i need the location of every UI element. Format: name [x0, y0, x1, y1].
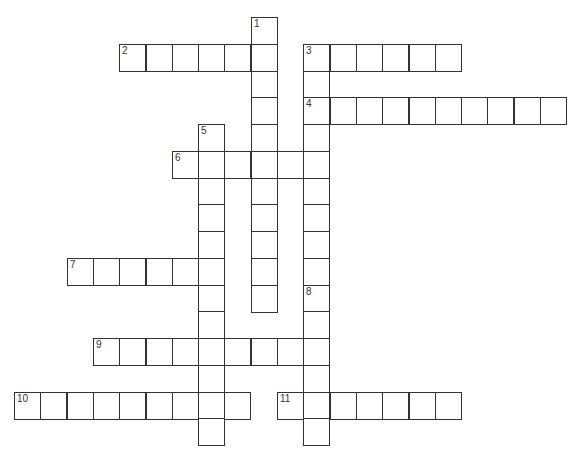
crossword-cell[interactable]: [303, 204, 330, 232]
crossword-cell[interactable]: [119, 392, 146, 420]
crossword-cell[interactable]: [119, 338, 146, 366]
clue-number: 5: [201, 126, 207, 136]
crossword-cell[interactable]: 9: [93, 338, 120, 366]
crossword-cell[interactable]: [303, 392, 330, 420]
crossword-cell[interactable]: 10: [14, 392, 41, 420]
crossword-cell[interactable]: [251, 204, 278, 232]
crossword-cell[interactable]: [435, 44, 462, 72]
crossword-cell[interactable]: [487, 97, 514, 125]
crossword-cell[interactable]: [93, 392, 120, 420]
crossword-cell[interactable]: [198, 178, 225, 206]
clue-number: 8: [306, 287, 312, 297]
crossword-cell[interactable]: 8: [303, 285, 330, 313]
crossword-cell[interactable]: 7: [67, 258, 94, 286]
crossword-cell[interactable]: [356, 392, 383, 420]
crossword-cell[interactable]: 6: [172, 151, 199, 179]
crossword-cell[interactable]: [198, 151, 225, 179]
clue-number: 3: [306, 46, 312, 56]
crossword-cell[interactable]: [198, 258, 225, 286]
crossword-cell[interactable]: [303, 124, 330, 152]
crossword-cell[interactable]: [409, 44, 436, 72]
crossword-cell[interactable]: [330, 392, 357, 420]
crossword-cell[interactable]: [251, 285, 278, 313]
crossword-cell[interactable]: [382, 44, 409, 72]
crossword-cell[interactable]: [251, 71, 278, 99]
crossword-cell[interactable]: [198, 285, 225, 313]
crossword-cell[interactable]: [303, 338, 330, 366]
crossword-grid: 1234567891011: [0, 0, 585, 467]
crossword-cell[interactable]: [172, 44, 199, 72]
crossword-cell[interactable]: [224, 392, 251, 420]
crossword-cell[interactable]: [172, 258, 199, 286]
crossword-cell[interactable]: [303, 71, 330, 99]
crossword-cell[interactable]: [146, 338, 173, 366]
crossword-cell[interactable]: 4: [303, 97, 330, 125]
clue-number: 10: [17, 394, 28, 404]
crossword-cell[interactable]: 5: [198, 124, 225, 152]
crossword-cell[interactable]: [303, 311, 330, 339]
crossword-cell[interactable]: [461, 97, 488, 125]
crossword-cell[interactable]: 3: [303, 44, 330, 72]
crossword-cell[interactable]: [198, 311, 225, 339]
crossword-cell[interactable]: [409, 97, 436, 125]
crossword-cell[interactable]: [198, 338, 225, 366]
crossword-cell[interactable]: [303, 418, 330, 446]
crossword-cell[interactable]: [198, 392, 225, 420]
crossword-cell[interactable]: 2: [119, 44, 146, 72]
clue-number: 7: [70, 260, 76, 270]
crossword-cell[interactable]: [409, 392, 436, 420]
crossword-cell[interactable]: [356, 97, 383, 125]
clue-number: 2: [122, 46, 128, 56]
crossword-cell[interactable]: [251, 338, 278, 366]
clue-number: 6: [175, 153, 181, 163]
crossword-cell[interactable]: [251, 97, 278, 125]
crossword-cell[interactable]: 1: [251, 17, 278, 45]
crossword-cell[interactable]: [224, 44, 251, 72]
crossword-cell[interactable]: [146, 258, 173, 286]
crossword-cell[interactable]: [146, 44, 173, 72]
crossword-cell[interactable]: [198, 204, 225, 232]
crossword-cell[interactable]: [356, 44, 383, 72]
crossword-cell[interactable]: [303, 231, 330, 259]
crossword-cell[interactable]: [251, 258, 278, 286]
crossword-cell[interactable]: [303, 365, 330, 393]
crossword-cell[interactable]: [251, 151, 278, 179]
crossword-cell[interactable]: [303, 151, 330, 179]
crossword-cell[interactable]: [330, 97, 357, 125]
crossword-cell[interactable]: [540, 97, 567, 125]
crossword-cell[interactable]: [198, 365, 225, 393]
crossword-cell[interactable]: [435, 392, 462, 420]
clue-number: 9: [96, 340, 102, 350]
crossword-cell[interactable]: [251, 44, 278, 72]
crossword-cell[interactable]: [382, 97, 409, 125]
crossword-cell[interactable]: [303, 258, 330, 286]
crossword-cell[interactable]: [198, 231, 225, 259]
clue-number: 4: [306, 99, 312, 109]
crossword-cell[interactable]: [198, 418, 225, 446]
crossword-cell[interactable]: [382, 392, 409, 420]
crossword-cell[interactable]: [67, 392, 94, 420]
crossword-cell[interactable]: [251, 124, 278, 152]
crossword-cell[interactable]: [251, 231, 278, 259]
crossword-cell[interactable]: [224, 338, 251, 366]
crossword-cell[interactable]: 11: [277, 392, 304, 420]
crossword-cell[interactable]: [514, 97, 541, 125]
clue-number: 1: [254, 19, 260, 29]
crossword-cell[interactable]: [303, 178, 330, 206]
crossword-cell[interactable]: [198, 44, 225, 72]
crossword-cell[interactable]: [330, 44, 357, 72]
crossword-cell[interactable]: [224, 151, 251, 179]
crossword-cell[interactable]: [251, 178, 278, 206]
crossword-cell[interactable]: [172, 338, 199, 366]
crossword-cell[interactable]: [277, 338, 304, 366]
crossword-cell[interactable]: [40, 392, 67, 420]
crossword-cell[interactable]: [146, 392, 173, 420]
crossword-cell[interactable]: [172, 392, 199, 420]
clue-number: 11: [280, 394, 290, 404]
crossword-cell[interactable]: [277, 151, 304, 179]
crossword-cell[interactable]: [93, 258, 120, 286]
crossword-cell[interactable]: [435, 97, 462, 125]
crossword-cell[interactable]: [119, 258, 146, 286]
